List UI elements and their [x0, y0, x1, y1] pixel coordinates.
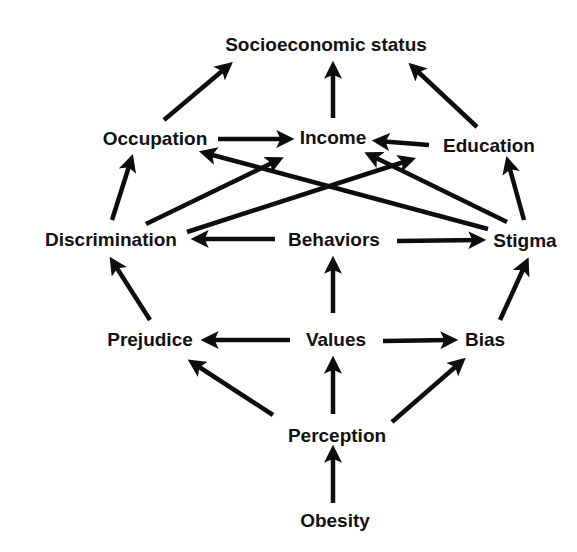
- node-prejudice: Prejudice: [107, 329, 193, 351]
- node-education: Education: [443, 135, 535, 157]
- edges-layer: [0, 0, 577, 552]
- arrow-perception-to-bias: [392, 362, 461, 422]
- arrow-stigma-to-income: [370, 155, 507, 222]
- node-stigma: Stigma: [493, 230, 556, 252]
- arrow-discrimination-to-occupation: [112, 160, 131, 220]
- node-discrimination: Discrimination: [45, 229, 177, 251]
- arrow-bias-to-stigma: [500, 263, 526, 320]
- arrow-perception-to-prejudice: [193, 363, 273, 415]
- node-obesity: Obesity: [300, 510, 370, 532]
- arrow-prejudice-to-discrimination: [113, 262, 150, 320]
- node-bias: Bias: [465, 329, 505, 351]
- arrow-occupation-to-ses: [164, 66, 228, 120]
- node-socioeconomic-status: Socioeconomic status: [225, 34, 427, 56]
- arrow-stigma-to-education: [508, 162, 524, 220]
- node-income: Income: [300, 127, 367, 149]
- arrow-values-to-bias: [383, 340, 452, 341]
- arrow-education-to-income: [378, 141, 429, 145]
- node-behaviors: Behaviors: [288, 229, 380, 251]
- node-perception: Perception: [288, 425, 386, 447]
- arrow-education-to-ses: [413, 67, 477, 127]
- arrow-discrimination-to-education: [187, 160, 410, 232]
- node-values: Values: [306, 329, 366, 351]
- arrow-behaviors-to-stigma: [397, 240, 480, 241]
- node-occupation: Occupation: [103, 128, 208, 150]
- causal-diagram: Socioeconomic status Occupation Income E…: [0, 0, 577, 552]
